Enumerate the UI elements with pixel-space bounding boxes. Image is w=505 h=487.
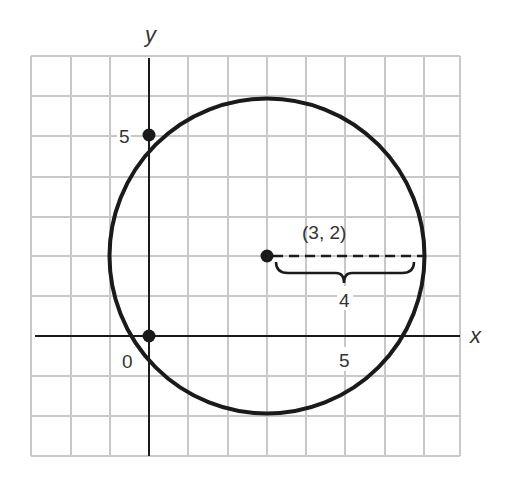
center-label: (3, 2) xyxy=(302,222,346,243)
y-tick-5-label: 5 xyxy=(119,126,130,147)
x-axis-label: x xyxy=(469,323,482,348)
x-tick-5-label: 5 xyxy=(339,350,350,371)
origin-label: 0 xyxy=(122,351,133,372)
coordinate-diagram: y x 5 0 5 (3, 2) 4 xyxy=(0,0,505,487)
y-axis-label: y xyxy=(143,22,158,47)
radius-label: 4 xyxy=(339,290,350,311)
grid xyxy=(31,56,460,456)
origin-point xyxy=(143,330,156,343)
y-intercept-point xyxy=(143,129,156,142)
center-point xyxy=(261,250,274,263)
